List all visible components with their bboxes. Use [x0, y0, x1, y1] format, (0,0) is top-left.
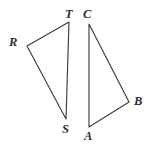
vertex-label-t: T — [65, 8, 73, 21]
triangle-abc — [89, 24, 129, 127]
vertex-label-s: S — [62, 123, 69, 136]
vertex-label-a: A — [84, 130, 92, 143]
triangles-svg — [0, 0, 151, 149]
vertex-label-c: C — [83, 8, 91, 21]
triangle-rst — [27, 22, 69, 119]
geometry-figure: T R S C B A — [0, 0, 151, 149]
vertex-label-b: B — [134, 95, 142, 108]
vertex-label-r: R — [9, 36, 17, 49]
